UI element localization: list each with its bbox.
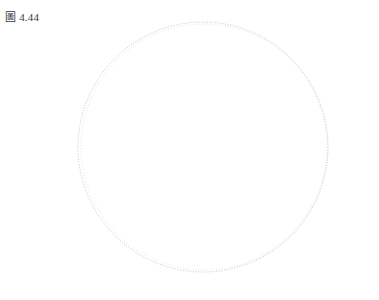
sphere-outline-circle-inner xyxy=(81,24,327,270)
sphere-outline-group xyxy=(78,22,328,272)
figure-page: 圖 4.44 xyxy=(0,0,379,300)
ellipse-foci-diagram xyxy=(0,0,379,300)
